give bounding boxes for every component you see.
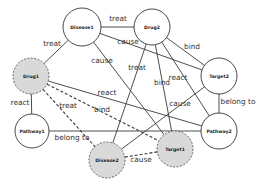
edge-label: cause	[117, 37, 139, 46]
node-drug2[interactable]: Drug2	[134, 9, 170, 45]
node-label: Disease1	[70, 25, 93, 30]
edge-label: react	[169, 73, 188, 82]
edge-label: bind	[94, 105, 110, 114]
edge-label: react	[98, 88, 117, 97]
edge-label: belong to	[55, 133, 90, 142]
node-drug1[interactable]: Drug1	[13, 58, 49, 94]
edge-drug2-disease2	[113, 44, 146, 143]
edge-label: react	[11, 98, 30, 107]
node-label: Drug2	[144, 25, 160, 30]
node-label: Pathway1	[19, 129, 44, 134]
node-pathway2[interactable]: Pathway2	[201, 113, 237, 149]
edge-label: treat	[59, 101, 77, 110]
node-pathway1[interactable]: Pathway1	[15, 114, 49, 148]
node-label: Drug1	[23, 74, 39, 79]
knowledge-graph: Disease1Drug2Target2Drug1Pathway1Pathway…	[0, 0, 265, 188]
edge-label: treat	[43, 39, 61, 48]
edge-drug2-target1	[155, 45, 171, 132]
node-label: Target1	[165, 147, 185, 152]
edge-label: cause	[169, 99, 191, 108]
node-label: Disease2	[95, 158, 118, 163]
node-disease1[interactable]: Disease1	[63, 8, 101, 46]
edge-label: cause	[91, 56, 113, 65]
node-disease2[interactable]: Disease2	[89, 142, 125, 178]
node-label: Target2	[209, 74, 229, 79]
edge-label: bind	[184, 42, 200, 51]
edge-label: cause	[130, 155, 152, 164]
node-label: Pathway2	[206, 129, 231, 134]
edge-label: belong to	[221, 97, 256, 106]
node-target2[interactable]: Target2	[201, 58, 237, 94]
edge-label: treat	[109, 14, 127, 23]
node-target1[interactable]: Target1	[157, 131, 193, 167]
edge-label: treat	[128, 63, 146, 72]
